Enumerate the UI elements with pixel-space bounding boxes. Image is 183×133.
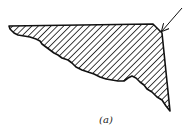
hatched-region [9,24,170,111]
figure-caption: (a) [96,114,116,125]
cross-section-diagram [0,0,183,133]
arrow-icon [162,8,182,31]
